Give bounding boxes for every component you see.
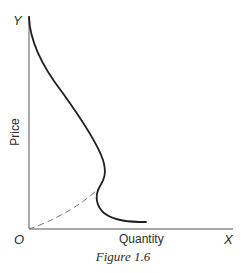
- x-axis-label: Quantity: [119, 233, 164, 245]
- dashed-extension-line: [29, 189, 98, 229]
- y-axis-label: Price: [9, 118, 21, 145]
- origin-letter: O: [14, 233, 24, 246]
- backward-bending-curve: [29, 17, 146, 222]
- y-axis-letter: Y: [13, 14, 22, 27]
- figure-caption: Figure 1.6: [0, 250, 246, 263]
- figure-1-6: Y O X Quantity Price Figure 1.6: [0, 0, 246, 273]
- x-axis-letter: X: [224, 233, 233, 246]
